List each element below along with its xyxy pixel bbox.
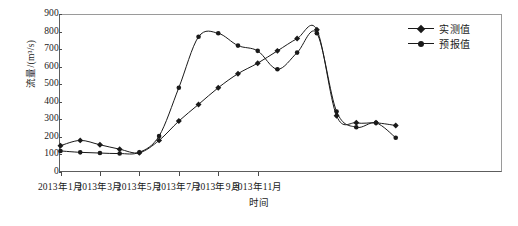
data-point-marker [275,67,280,72]
x-tick-mark [258,172,259,176]
x-tick-mark [100,172,101,176]
data-point-marker [235,71,241,77]
chart-legend: 实测值预报值 [408,21,492,51]
flow-discharge-line-chart: 0100200300400500600700800900 流量/(m³/s) 2… [0,0,518,226]
x-tick-label: 2013年7月 [156,179,201,193]
legend-item-1[interactable]: 实测值 [408,21,492,36]
data-point-marker [58,143,64,149]
x-axis-title: 时间 [0,195,518,209]
legend-label: 预报值 [439,36,471,51]
x-tick-label: 2013年5月 [117,179,162,193]
x-tick-label: 2013年1月 [38,179,83,193]
data-point-marker [137,150,142,155]
data-point-marker [157,134,162,139]
y-tick-label: 200 [25,132,59,142]
data-point-marker [97,142,103,148]
data-point-marker [196,35,201,40]
x-tick-mark [139,172,140,176]
y-tick-label: 0 [25,167,59,177]
legend-item-2[interactable]: 预报值 [408,36,492,51]
legend-marker-icon [408,23,434,34]
legend-marker-icon [408,38,434,49]
data-point-marker [353,120,359,126]
data-point-marker [374,121,379,126]
data-point-marker [236,43,241,48]
data-point-marker [255,60,261,66]
data-point-marker [77,137,83,143]
data-point-marker [117,146,123,152]
y-tick-label: 100 [25,149,59,159]
series-2 [58,31,398,156]
data-point-marker [58,149,63,154]
x-tick-label: 2013年3月 [77,179,122,193]
data-point-marker [117,151,122,156]
data-point-marker [393,123,399,129]
x-tick-mark [61,172,62,176]
data-point-marker [295,50,300,55]
data-point-marker [177,85,182,90]
data-point-marker [255,49,260,54]
y-axis-title: 流量/(m³/s) [23,8,37,120]
data-point-marker [216,31,221,36]
x-tick-mark [218,172,219,176]
data-point-marker [98,151,103,156]
series-line [61,25,396,153]
x-tick-mark [179,172,180,176]
data-point-marker [334,109,339,114]
data-point-marker [315,31,320,36]
legend-label: 实测值 [439,21,471,36]
data-point-marker [274,48,280,54]
series-line [61,31,396,154]
data-point-marker [393,135,398,140]
series-1 [58,25,399,155]
x-tick-label: 2013年11月 [233,179,283,193]
data-point-marker [354,125,359,130]
data-point-marker [78,150,83,155]
